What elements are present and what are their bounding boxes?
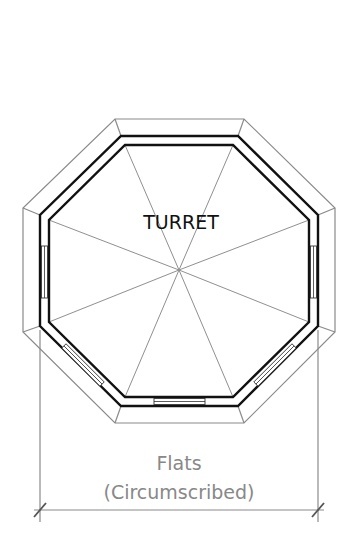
dimension-label-flats: Flats [156, 452, 201, 474]
dimension-label-circumscribed: (Circumscribed) [103, 481, 254, 503]
turret-label: TURRET [142, 211, 219, 233]
window-right [311, 246, 317, 298]
window-bottom-right [254, 344, 296, 386]
window-left [42, 246, 48, 298]
window-bottom [154, 399, 205, 405]
window-bottom-left [62, 344, 104, 386]
turret-plan-diagram: TURRET Flats (Circumscribed) [0, 0, 362, 549]
